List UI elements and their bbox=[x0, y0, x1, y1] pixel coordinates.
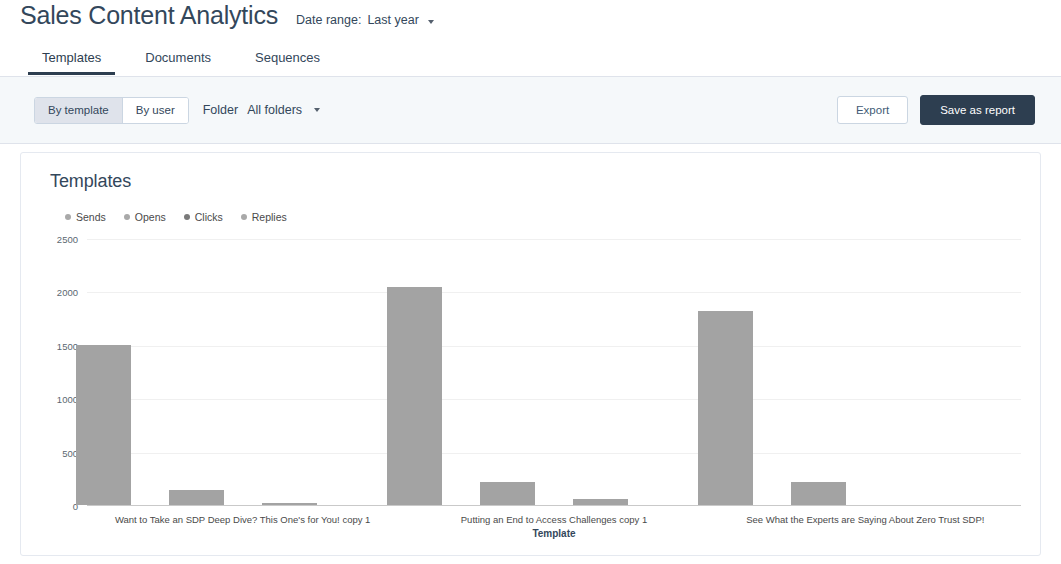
gridline bbox=[87, 292, 1021, 293]
folder-label: Folder bbox=[203, 103, 238, 117]
bar-clicks[interactable] bbox=[262, 503, 317, 505]
bar-clicks[interactable] bbox=[573, 499, 628, 505]
folder-filter[interactable]: Folder All folders bbox=[203, 103, 320, 117]
date-range-filter[interactable]: Date range: Last year bbox=[296, 13, 434, 27]
date-range-label: Date range: bbox=[296, 13, 361, 27]
tab-templates[interactable]: Templates bbox=[20, 44, 123, 75]
chevron-down-icon bbox=[428, 20, 434, 24]
chart-plot: Template 05001000150020002500Want to Tak… bbox=[87, 239, 1021, 506]
bar-sends[interactable] bbox=[76, 345, 131, 505]
filter-toolbar: By template By user Folder All folders E… bbox=[0, 77, 1061, 143]
bar-opens[interactable] bbox=[480, 482, 535, 505]
gridline bbox=[87, 399, 1021, 400]
y-axis-tick-label: 2500 bbox=[57, 234, 78, 245]
y-axis-tick-label: 2000 bbox=[57, 287, 78, 298]
gridline bbox=[87, 346, 1021, 347]
gridline bbox=[87, 239, 1021, 240]
filter-toolbar-left: By template By user Folder All folders bbox=[34, 97, 320, 124]
page-title: Sales Content Analytics bbox=[20, 0, 278, 30]
bar-sends[interactable] bbox=[698, 311, 753, 505]
bar-sends[interactable] bbox=[387, 287, 442, 505]
x-axis-category-label: Putting an End to Access Challenges copy… bbox=[461, 514, 647, 525]
date-range-value: Last year bbox=[367, 13, 418, 27]
folder-value: All folders bbox=[247, 103, 302, 117]
x-axis-line bbox=[87, 505, 1021, 506]
templates-chart-card: Templates SendsOpensClicksReplies Templa… bbox=[20, 152, 1041, 556]
tab-documents[interactable]: Documents bbox=[123, 44, 233, 75]
bar-opens[interactable] bbox=[791, 482, 846, 505]
gridline bbox=[87, 453, 1021, 454]
x-axis-category-label: See What the Experts are Saying About Ze… bbox=[746, 514, 984, 525]
by-template-button[interactable]: By template bbox=[35, 98, 122, 123]
x-axis-category-label: Want to Take an SDP Deep Dive? This One'… bbox=[115, 514, 370, 525]
bar-opens[interactable] bbox=[169, 490, 224, 505]
chart-area: Template 05001000150020002500Want to Tak… bbox=[21, 153, 1042, 557]
export-button[interactable]: Export bbox=[837, 96, 908, 124]
filter-toolbar-right: Export Save as report bbox=[837, 95, 1035, 125]
save-as-report-button[interactable]: Save as report bbox=[920, 95, 1035, 125]
chevron-down-icon bbox=[314, 108, 320, 112]
tab-bar: Templates Documents Sequences bbox=[20, 44, 1041, 77]
analytics-page: Sales Content Analytics Date range: Last… bbox=[0, 0, 1061, 564]
page-header: Sales Content Analytics Date range: Last… bbox=[0, 0, 1061, 40]
toolbar-divider bbox=[0, 143, 1061, 144]
x-axis-title: Template bbox=[532, 528, 575, 539]
view-mode-toggle[interactable]: By template By user bbox=[34, 97, 189, 124]
by-user-button[interactable]: By user bbox=[123, 98, 188, 123]
tab-sequences[interactable]: Sequences bbox=[233, 44, 342, 75]
